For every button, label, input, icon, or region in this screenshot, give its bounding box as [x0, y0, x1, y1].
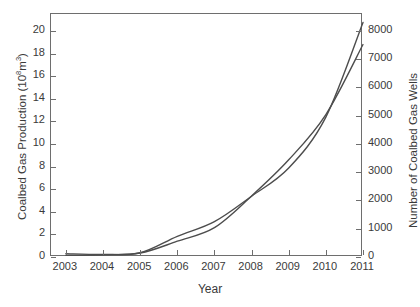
- x-axis-tick: [363, 250, 364, 255]
- y-axis-left-tick: [51, 212, 56, 213]
- series-line-1: [66, 45, 363, 256]
- y-axis-right-tick-label: 3000: [368, 165, 414, 176]
- y-axis-left-tick-label: 8: [5, 160, 45, 171]
- y-axis-left-tick: [51, 31, 56, 32]
- y-axis-right-tick-label: 1000: [368, 222, 414, 233]
- series-line-2: [66, 22, 363, 254]
- y-axis-left-tick-label: 14: [5, 92, 45, 103]
- y-axis-left-tick-label: 4: [5, 205, 45, 216]
- y-axis-right-tick-label: 2000: [368, 193, 414, 204]
- y-axis-left-tick: [51, 189, 56, 190]
- y-axis-right-tick: [356, 257, 361, 258]
- y-axis-right-tick-label: 6000: [368, 80, 414, 91]
- y-axis-left-tick: [51, 144, 56, 145]
- x-axis-tick: [252, 250, 253, 255]
- y-axis-right-tick-label: 7000: [368, 52, 414, 63]
- y-axis-left-tick-label: 6: [5, 182, 45, 193]
- y-axis-right-tick-label: 0: [368, 250, 414, 261]
- y-axis-right-tick-label: 4000: [368, 137, 414, 148]
- y-axis-left-tick: [51, 234, 56, 235]
- plot-area: [50, 13, 362, 256]
- y-axis-left-tick: [51, 121, 56, 122]
- x-axis-tick-label: 2011: [339, 261, 385, 272]
- y-axis-left-tick: [51, 99, 56, 100]
- y-axis-left-tick-label: 16: [5, 69, 45, 80]
- y-axis-right-tick-label: 8000: [368, 24, 414, 35]
- y-axis-right-tick-label: 5000: [368, 109, 414, 120]
- y-axis-left-tick-label: 0: [5, 250, 45, 261]
- y-axis-right-tick: [356, 144, 361, 145]
- y-axis-right-title: Number of Coalbed Gas Wells: [407, 73, 419, 228]
- y-axis-left-tick: [51, 54, 56, 55]
- x-axis-tick: [289, 250, 290, 255]
- x-axis-tick: [326, 250, 327, 255]
- y-axis-right-tick: [356, 229, 361, 230]
- x-axis-tick: [66, 250, 67, 255]
- y-axis-left-tick-label: 12: [5, 114, 45, 125]
- data-curves: [51, 14, 363, 257]
- x-axis-tick: [140, 250, 141, 255]
- y-axis-left-tick: [51, 76, 56, 77]
- y-axis-right-tick: [356, 116, 361, 117]
- y-axis-left-tick: [51, 257, 56, 258]
- x-axis-tick: [177, 250, 178, 255]
- x-axis-title: Year: [0, 282, 420, 296]
- y-axis-right-tick: [356, 172, 361, 173]
- y-axis-right-tick: [356, 200, 361, 201]
- y-axis-left-tick: [51, 167, 56, 168]
- y-axis-right-tick: [356, 87, 361, 88]
- x-axis-tick: [103, 250, 104, 255]
- x-axis-tick: [214, 250, 215, 255]
- y-axis-left-tick-label: 20: [5, 24, 45, 35]
- y-axis-left-tick-label: 10: [5, 137, 45, 148]
- y-axis-right-tick: [356, 31, 361, 32]
- y-axis-left-tick-label: 18: [5, 47, 45, 58]
- chart-figure: Coalbed Gas Production (108m3) Number of…: [0, 0, 420, 307]
- y-axis-left-tick-label: 2: [5, 227, 45, 238]
- y-axis-right-tick: [356, 59, 361, 60]
